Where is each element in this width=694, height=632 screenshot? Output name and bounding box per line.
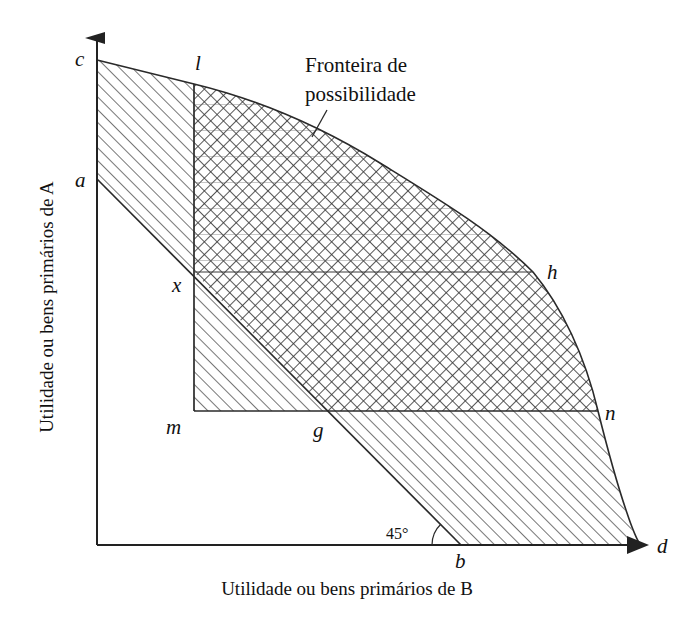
annotation-line-2: possibilidade bbox=[305, 82, 416, 106]
figure-root: c a l x m g h n b d Fronteira de possibi… bbox=[0, 0, 694, 632]
point-label-n: n bbox=[605, 401, 616, 425]
x-axis-title: Utilidade ou bens primários de B bbox=[0, 578, 694, 600]
angle-label-45: 45° bbox=[386, 525, 408, 542]
y-axis-title: Utilidade ou bens primários de A bbox=[36, 142, 58, 472]
point-label-h: h bbox=[547, 260, 558, 284]
point-label-a: a bbox=[75, 168, 86, 192]
possibility-frontier-diagram: c a l x m g h n b d Fronteira de possibi… bbox=[0, 0, 694, 632]
angle-arc-45 bbox=[432, 524, 441, 545]
point-label-g: g bbox=[313, 418, 324, 442]
point-label-l: l bbox=[195, 51, 201, 75]
point-label-d: d bbox=[657, 534, 668, 558]
point-label-b: b bbox=[455, 549, 466, 573]
point-label-c: c bbox=[75, 47, 85, 71]
annotation-line-1: Fronteira de bbox=[305, 53, 407, 77]
point-label-m: m bbox=[166, 415, 181, 439]
region-upper-left-hatched bbox=[97, 60, 194, 272]
point-label-x: x bbox=[171, 273, 182, 297]
